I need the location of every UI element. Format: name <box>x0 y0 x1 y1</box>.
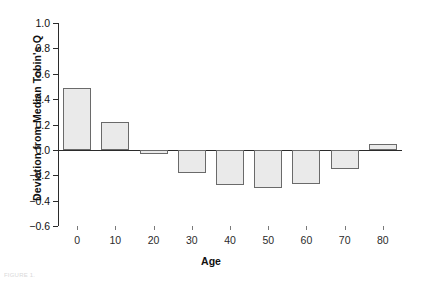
y-axis-spine <box>58 23 59 226</box>
x-tick-label: 50 <box>262 234 274 246</box>
x-tick-label: 70 <box>339 234 351 246</box>
x-tick-label: 80 <box>377 234 389 246</box>
x-tick-label: 10 <box>109 234 121 246</box>
x-tick-label: 20 <box>148 234 160 246</box>
y-tick-mark <box>53 48 58 49</box>
x-tick-mark <box>230 226 231 230</box>
y-tick-label: −0.6 <box>16 220 50 232</box>
figure-container: Deviation from Median Tobin's Q 1.00.80.… <box>0 0 422 281</box>
bar <box>140 150 168 154</box>
y-tick-label: 0.2 <box>16 119 50 131</box>
y-tick-mark <box>53 226 58 227</box>
y-tick-label: 0.8 <box>16 42 50 54</box>
bar <box>292 150 320 184</box>
bar <box>178 150 206 173</box>
y-tick-label: −0.2 <box>16 169 50 181</box>
figure-caption-cutoff: FIGURE 1. <box>4 272 418 280</box>
x-tick-label: 60 <box>301 234 313 246</box>
x-tick-mark <box>268 226 269 230</box>
y-tick-mark <box>53 201 58 202</box>
y-tick-mark <box>53 74 58 75</box>
x-tick-mark <box>192 226 193 230</box>
x-tick-label: 0 <box>74 234 80 246</box>
bar <box>331 150 359 169</box>
bar <box>101 122 129 150</box>
bar <box>369 144 397 150</box>
x-tick-label: 30 <box>186 234 198 246</box>
x-tick-mark <box>383 226 384 230</box>
bar <box>216 150 244 186</box>
y-tick-mark <box>53 175 58 176</box>
x-tick-mark <box>306 226 307 230</box>
plot-area: 1.00.80.60.40.20.0−0.2−0.4−0.6 010203040… <box>58 23 402 226</box>
y-tick-label: 0.0 <box>16 144 50 156</box>
bar <box>254 150 282 188</box>
y-tick-label: 0.4 <box>16 93 50 105</box>
x-tick-label: 40 <box>224 234 236 246</box>
bar <box>63 88 91 150</box>
y-tick-mark <box>53 23 58 24</box>
y-tick-label: 0.6 <box>16 68 50 80</box>
y-tick-mark <box>53 99 58 100</box>
y-tick-mark <box>53 125 58 126</box>
y-tick-label: 1.0 <box>16 17 50 29</box>
y-tick-label: −0.4 <box>16 195 50 207</box>
x-tick-mark <box>154 226 155 230</box>
x-tick-mark <box>115 226 116 230</box>
x-tick-mark <box>77 226 78 230</box>
x-axis-title: Age <box>0 255 422 267</box>
x-tick-mark <box>345 226 346 230</box>
